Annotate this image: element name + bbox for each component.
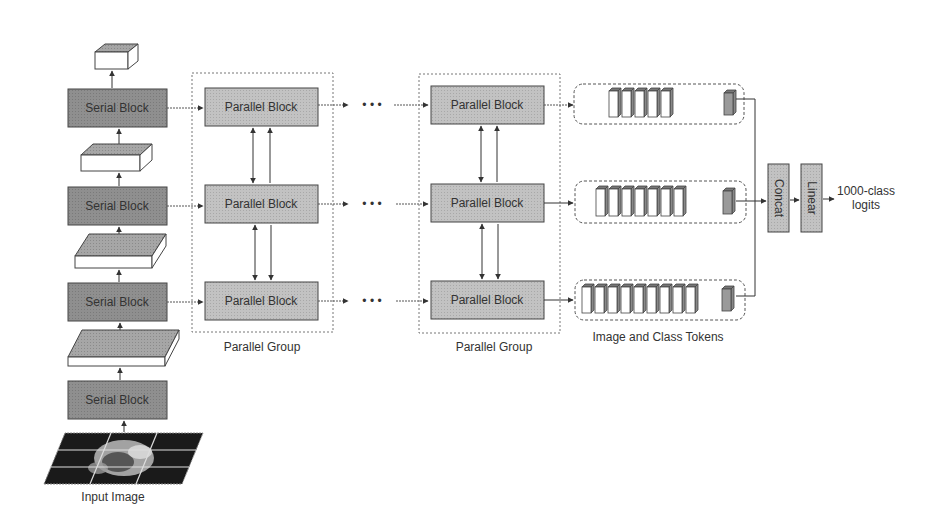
output-label-line1: 1000-class [837, 184, 895, 198]
svg-text:Serial Block: Serial Block [85, 199, 149, 213]
svg-text:Serial Block: Serial Block [85, 101, 149, 115]
input-image-label: Input Image [81, 490, 145, 504]
output-label-line2: logits [852, 198, 880, 212]
linear-block: Linear [801, 164, 822, 232]
svg-text:• • •: • • • [362, 98, 381, 112]
feature-map-3 [81, 144, 152, 171]
input-image [44, 433, 203, 484]
svg-text:Concat: Concat [772, 179, 786, 218]
svg-text:Serial Block: Serial Block [85, 295, 149, 309]
concat-block: Concat [768, 164, 789, 232]
svg-text:• • •: • • • [362, 294, 381, 308]
parallel-group-1-label: Parallel Group [224, 340, 301, 354]
token-row-2 [575, 181, 746, 223]
svg-text:Parallel Block: Parallel Block [225, 294, 299, 308]
svg-text:Parallel Block: Parallel Block [225, 197, 299, 211]
ellipsis-connectors: • • • • • • • • • [318, 98, 428, 308]
token-cuboids [609, 88, 736, 117]
serial-block-2: Serial Block [68, 283, 167, 321]
token-cuboids [582, 284, 734, 313]
coat-architecture-diagram: Serial Block Serial Block Serial Block S… [0, 0, 937, 523]
svg-text:Serial Block: Serial Block [85, 393, 149, 407]
serial-block-3: Serial Block [68, 187, 167, 225]
feature-map-2 [75, 234, 166, 268]
token-row-1 [574, 84, 744, 124]
tokens-label: Image and Class Tokens [592, 330, 723, 344]
parallel-group-2-label: Parallel Group [456, 340, 533, 354]
parallel-group-1: Parallel Block Parallel Block Parallel B… [192, 73, 333, 332]
svg-text:Parallel Block: Parallel Block [451, 196, 525, 210]
svg-text:• • •: • • • [362, 197, 381, 211]
serial-block-1: Serial Block [68, 381, 167, 419]
parallel-group-2: Parallel Block Parallel Block Parallel B… [419, 74, 560, 333]
svg-text:Linear: Linear [805, 181, 819, 214]
token-row-3 [575, 280, 745, 320]
feature-map-4 [95, 44, 138, 69]
token-cuboids [596, 186, 735, 216]
feature-map-1 [68, 330, 179, 366]
svg-text:Parallel Block: Parallel Block [451, 98, 525, 112]
svg-text:Parallel Block: Parallel Block [451, 293, 525, 307]
svg-text:Parallel Block: Parallel Block [225, 100, 299, 114]
serial-block-4: Serial Block [68, 89, 167, 127]
